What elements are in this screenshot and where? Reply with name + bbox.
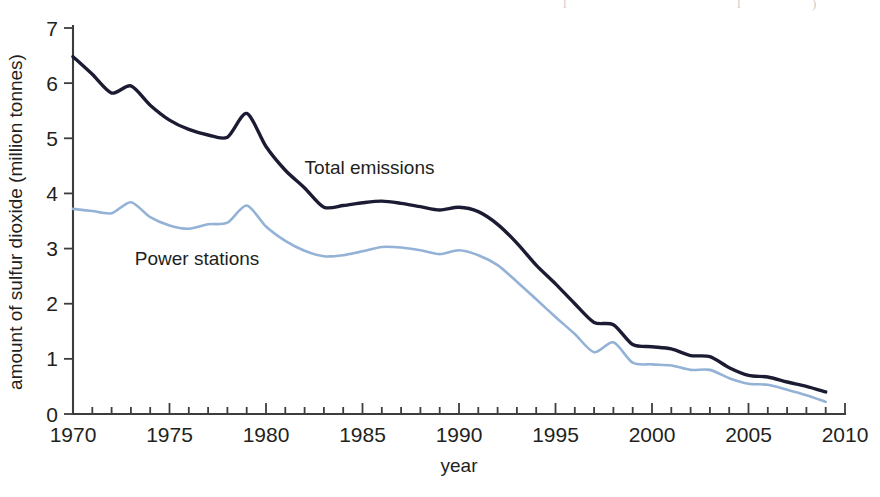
- x-tick-label-1995: 1995: [532, 423, 579, 446]
- x-tick-label-2000: 2000: [629, 423, 676, 446]
- x-tick-label-1985: 1985: [339, 423, 386, 446]
- plot-area: 01234567 1970197519801985199019952000200…: [46, 17, 868, 447]
- y-tick-label-3: 3: [46, 237, 58, 260]
- x-tick-label-1970: 1970: [50, 423, 97, 446]
- y-tick-label-6: 6: [46, 72, 58, 95]
- y-tick-label-7: 7: [46, 17, 58, 40]
- y-tick-label-1: 1: [46, 347, 58, 370]
- x-axis-tick-labels: 197019751980198519901995200020052010: [50, 423, 869, 446]
- series-line-power-stations: [73, 202, 826, 402]
- y-axis-ticks: [64, 28, 73, 414]
- x-tick-label-2005: 2005: [725, 423, 772, 446]
- series-label-total-emissions: Total emissions: [305, 157, 435, 178]
- y-tick-label-4: 4: [46, 182, 58, 205]
- series-line-total-emissions: [73, 57, 826, 392]
- x-tick-label-1980: 1980: [243, 423, 290, 446]
- series-label-power-stations: Power stations: [135, 248, 260, 269]
- data-series-group: [73, 57, 826, 402]
- sulfur-dioxide-emissions-figure: ll) 01234567 197019751980198519901995200…: [0, 0, 880, 497]
- y-tick-label-2: 2: [46, 292, 58, 315]
- x-tick-label-1990: 1990: [436, 423, 483, 446]
- x-tick-label-1975: 1975: [146, 423, 193, 446]
- series-inline-labels: Total emissionsPower stations: [135, 157, 435, 269]
- x-axis-title: year: [441, 455, 479, 476]
- y-axis-title: amount of sulfur dioxide (million tonnes…: [5, 54, 26, 390]
- y-axis-tick-labels: 01234567: [46, 17, 58, 426]
- line-chart: 01234567 1970197519801985199019952000200…: [0, 0, 880, 497]
- x-tick-label-2010: 2010: [822, 423, 869, 446]
- y-tick-label-5: 5: [46, 127, 58, 150]
